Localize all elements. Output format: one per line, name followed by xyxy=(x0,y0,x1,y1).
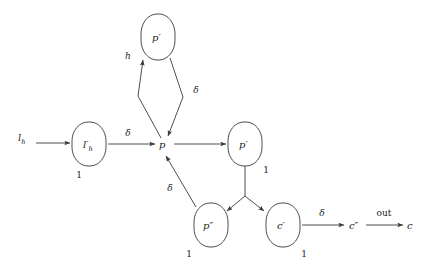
edge-p-to-pprimetop[interactable] xyxy=(138,60,161,138)
edge-pprimetop-to-p[interactable] xyxy=(168,58,183,136)
node-label-c-sink-main: c xyxy=(407,220,413,231)
edge-pdoubleprime-to-p[interactable] xyxy=(166,156,196,207)
node-label-p-double-prime: p″ xyxy=(203,220,213,232)
node-label-p-prime-right: p′ xyxy=(239,139,248,151)
node-shapes-layer xyxy=(72,14,300,247)
node-label-lh-prime-sub: h xyxy=(88,145,92,153)
node-label-c-sink: c xyxy=(407,220,413,231)
edge-label-delta-cprime-cdoubleprime: δ xyxy=(319,208,324,218)
node-label-c-prime: c′ xyxy=(277,220,286,232)
node-label-c-double-prime-mark: ″ xyxy=(355,220,359,231)
diagram-graph: lh l′h p p′ p′ p″ c′ xyxy=(0,0,427,266)
node-label-p-main: p xyxy=(159,139,166,150)
node-label-p-double-prime-mark: ″ xyxy=(209,220,213,231)
edge-label-h-to-pprime: h xyxy=(125,51,131,61)
node-label-c-double-prime: c″ xyxy=(349,220,359,232)
weight-label-p-double-prime: 1 xyxy=(186,249,192,259)
node-label-p: p xyxy=(159,139,166,150)
weight-label-p-prime-right: 1 xyxy=(263,165,269,175)
edge-label-delta-pdoubleprime-p: δ xyxy=(167,183,172,193)
node-label-p-prime-top: p′ xyxy=(152,32,161,44)
weight-label-lh-prime: 1 xyxy=(76,170,82,180)
edge-label-delta-pprime-p: δ xyxy=(193,85,198,95)
edge-label-delta-lhprime-p: δ xyxy=(125,128,130,138)
edge-pprimeright-fork-to-pdoubleprime[interactable] xyxy=(227,196,245,211)
node-label-lh-source-sub: h xyxy=(21,138,25,146)
node-label-lh-source: lh xyxy=(18,132,25,146)
edge-pprimeright-fork-to-cprime[interactable] xyxy=(245,196,264,211)
weight-label-c-prime: 1 xyxy=(301,249,307,259)
edge-label-out-cdoubleprime-c: out xyxy=(377,208,392,218)
diagram-canvas: lh l′h p p′ p′ p″ c′ xyxy=(0,0,427,266)
